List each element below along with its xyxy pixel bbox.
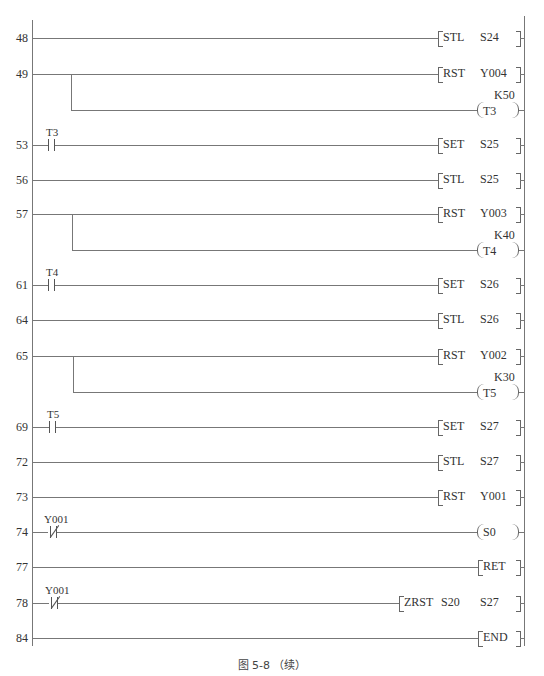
bracket-right <box>516 631 521 647</box>
step-number: 57 <box>4 207 28 222</box>
step-number: 65 <box>4 349 28 364</box>
rung-wire-end <box>520 638 524 639</box>
rung-wire-end <box>520 214 524 215</box>
rung-wire-end <box>520 427 524 428</box>
rung-wire <box>32 427 49 428</box>
instruction-name: STL <box>443 172 464 187</box>
instruction-operand: S25 <box>480 172 499 187</box>
timer-preset: K50 <box>494 88 515 103</box>
instruction-name: RST <box>443 66 465 81</box>
bracket-right <box>516 207 521 223</box>
rung-wire <box>32 603 49 604</box>
instruction-operand: S25 <box>480 137 499 152</box>
instruction-name: RET <box>483 559 506 574</box>
step-number: 64 <box>4 313 28 328</box>
rung-wire <box>57 532 477 533</box>
bracket-right <box>516 31 521 47</box>
bracket-right <box>516 596 521 612</box>
instruction-name: ZRST <box>404 595 433 610</box>
instruction-operand: S20 <box>441 595 460 610</box>
left-power-rail <box>32 20 33 646</box>
bracket-right <box>516 420 521 436</box>
timer-preset: K40 <box>494 228 515 243</box>
step-number: 56 <box>4 173 28 188</box>
instruction-operand: S27 <box>480 454 499 469</box>
rung-wire <box>55 285 438 286</box>
figure-caption: 图 5-8 （续） <box>0 656 544 672</box>
rung-wire <box>55 145 438 146</box>
bracket-right <box>516 138 521 154</box>
coil-right <box>512 524 519 540</box>
rung-wire <box>32 532 48 533</box>
instruction-operand: Y002 <box>480 348 507 363</box>
instruction-name: RST <box>443 348 465 363</box>
instruction-name: STL <box>443 312 464 327</box>
rung-wire <box>32 356 438 357</box>
branch-wire <box>72 250 477 251</box>
contact-label: T5 <box>47 408 59 420</box>
step-number: 74 <box>4 525 28 540</box>
rung-wire <box>32 497 438 498</box>
rung-wire <box>32 638 478 639</box>
rung-wire <box>32 145 48 146</box>
contact-label: T4 <box>46 266 58 278</box>
instruction-name: SET <box>443 277 464 292</box>
rung-wire <box>32 214 438 215</box>
rung-wire-end <box>520 462 524 463</box>
rung-wire-end <box>519 532 524 533</box>
rung-wire-end <box>520 603 524 604</box>
step-number: 84 <box>4 631 28 646</box>
instruction-operand: S26 <box>480 277 499 292</box>
timer-preset: K30 <box>494 370 515 385</box>
bracket-right <box>516 560 521 576</box>
rung-wire-end <box>520 38 524 39</box>
coil-right <box>512 384 519 400</box>
rung-wire <box>32 567 478 568</box>
rung-wire <box>32 462 438 463</box>
step-number: 73 <box>4 490 28 505</box>
step-number: 77 <box>4 560 28 575</box>
instruction-operand: S24 <box>480 30 499 45</box>
rung-wire <box>58 603 399 604</box>
step-number: 53 <box>4 138 28 153</box>
rung-wire-end <box>519 392 524 393</box>
rung-wire-end <box>520 497 524 498</box>
contact-label: Y001 <box>45 584 69 596</box>
branch-wire <box>71 110 477 111</box>
rung-wire-end <box>520 356 524 357</box>
rung-wire <box>32 180 438 181</box>
rung-wire-end <box>520 74 524 75</box>
right-power-rail <box>524 16 525 646</box>
instruction-operand: Y004 <box>480 66 507 81</box>
instruction-operand: Y003 <box>480 206 507 221</box>
rung-wire-end <box>519 250 524 251</box>
coil-device: T5 <box>483 386 496 401</box>
instruction-name: RST <box>443 206 465 221</box>
rung-wire-end <box>520 180 524 181</box>
coil-right <box>512 242 519 258</box>
instruction-name: SET <box>443 137 464 152</box>
rung-wire-end <box>520 285 524 286</box>
coil-device: T4 <box>483 244 496 259</box>
rung-wire <box>32 285 48 286</box>
bracket-right <box>516 490 521 506</box>
instruction-operand: S27 <box>480 419 499 434</box>
instruction-name: RST <box>443 489 465 504</box>
branch-wire <box>73 356 74 392</box>
rung-wire-end <box>520 320 524 321</box>
rung-wire-end <box>519 110 524 111</box>
instruction-operand: Y001 <box>480 489 507 504</box>
instruction-operand: S26 <box>480 312 499 327</box>
rung-wire-end <box>520 567 524 568</box>
bracket-right <box>516 349 521 365</box>
bracket-right <box>516 278 521 294</box>
step-number: 49 <box>4 67 28 82</box>
rung-wire <box>32 320 438 321</box>
coil-device: T3 <box>483 104 496 119</box>
contact-label: T3 <box>46 126 58 138</box>
instruction-name: END <box>483 630 508 645</box>
instruction-operand-2: S27 <box>480 595 499 610</box>
coil-right <box>512 102 519 118</box>
step-number: 72 <box>4 455 28 470</box>
rung-wire-end <box>520 145 524 146</box>
